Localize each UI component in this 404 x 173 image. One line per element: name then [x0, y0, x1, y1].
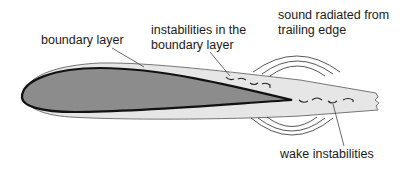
- label-boundary-layer: boundary layer: [41, 33, 124, 47]
- label-sound-line2: trailing edge: [278, 23, 346, 37]
- label-instabilities-line2: boundary layer: [151, 38, 234, 52]
- airfoil-diagram: boundary layer instabilities in the boun…: [0, 0, 404, 173]
- label-instabilities-line1: instabilities in the: [151, 23, 246, 37]
- sound-arcs-upper: [253, 56, 340, 76]
- label-sound-line1: sound radiated from: [278, 8, 389, 22]
- label-wake-instabilities: wake instabilities: [280, 147, 374, 161]
- sound-arcs-lower: [251, 117, 333, 135]
